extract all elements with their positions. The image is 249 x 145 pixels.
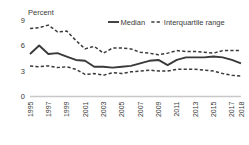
x-axis-tick-label: 1995 — [27, 101, 34, 117]
chart-container: Percent 0369 199519971999200120032005200… — [0, 0, 249, 145]
y-axis-tick-label: 0 — [21, 92, 25, 101]
x-axis-tick-label: 2015 — [210, 101, 217, 117]
legend-label-iqr: Interquartile range — [164, 18, 225, 27]
x-axis-tick-label: 2009 — [155, 101, 162, 117]
x-axis-tick-label: 2007 — [137, 101, 144, 117]
y-axis-tick-group: 0369 — [21, 16, 25, 102]
y-axis-tick-label: 9 — [21, 16, 25, 25]
series-line-upper-quartile — [30, 25, 241, 55]
x-axis-tick-label: 2011 — [173, 101, 180, 116]
chart-legend: MedianInterquartile range — [108, 18, 225, 27]
x-axis-tick-label: 2005 — [118, 101, 125, 117]
series-line-median — [30, 46, 241, 68]
x-axis-tick-label: 2001 — [82, 101, 89, 117]
y-axis-tick-label: 3 — [21, 67, 25, 76]
x-axis-tick-group: 1995199719992001200320052007200920112013… — [27, 101, 245, 117]
x-axis-tick-label: 2013 — [192, 101, 199, 117]
line-chart: Percent 0369 199519971999200120032005200… — [0, 0, 249, 145]
y-axis-tick-label: 6 — [21, 41, 25, 50]
data-series-group — [30, 25, 241, 76]
x-axis-tick-label: 2017 — [228, 101, 235, 117]
x-axis-tick-label: 2018 — [238, 101, 245, 117]
y-axis-label: Percent — [28, 8, 55, 17]
x-axis-tick-label: 2003 — [100, 101, 107, 117]
x-axis-tick-label: 1999 — [63, 101, 70, 117]
series-line-lower-quartile — [30, 66, 241, 76]
x-axis-tick-label: 1997 — [45, 101, 52, 117]
legend-label-median: Median — [121, 18, 146, 27]
